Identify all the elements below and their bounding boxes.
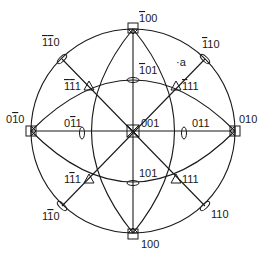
label-1_11: 111 <box>64 173 81 185</box>
label-0_11: 011 <box>64 117 82 129</box>
label-_100: 100 <box>139 12 157 24</box>
label-_110: 110 <box>202 38 220 50</box>
label-100: 100 <box>141 238 159 250</box>
pole-_1_11-symbol <box>84 81 94 90</box>
label-110: 110 <box>211 208 229 220</box>
annotation-a: ·a <box>176 56 187 68</box>
label-1_10: 110 <box>42 210 60 222</box>
pole-011-symbol <box>182 127 187 139</box>
label-_101: 101 <box>139 64 157 76</box>
label-0_10: 010 <box>6 113 24 125</box>
pole-111-symbol <box>171 174 181 183</box>
label-_1_11: 111 <box>64 80 81 92</box>
label-101: 101 <box>139 167 157 179</box>
label-_111: 111 <box>182 80 199 92</box>
label-001: 001 <box>141 117 159 129</box>
stereographic-projection: 001 100 100 010 010 101 101 011 011 111 … <box>0 0 265 257</box>
label-010: 010 <box>239 113 257 125</box>
label-111: 111 <box>182 173 199 185</box>
label-011: 011 <box>192 117 210 129</box>
label-_1_10: 110 <box>42 36 60 48</box>
